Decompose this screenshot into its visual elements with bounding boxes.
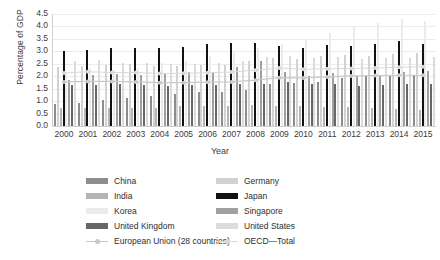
bar bbox=[413, 75, 415, 126]
bar bbox=[143, 85, 145, 126]
y-axis-tick-label: 1.5 bbox=[22, 84, 48, 93]
bar bbox=[65, 72, 67, 126]
y-axis-tick-label: 2.0 bbox=[22, 71, 48, 80]
bar-group bbox=[388, 14, 412, 126]
y-axis-tick-label: 0.5 bbox=[22, 109, 48, 118]
bar bbox=[198, 92, 200, 126]
bar bbox=[188, 72, 190, 127]
bar bbox=[105, 65, 107, 126]
bar bbox=[382, 85, 384, 126]
bar bbox=[341, 78, 343, 126]
bar bbox=[140, 75, 142, 126]
legend-color-swatch bbox=[86, 193, 108, 199]
bar bbox=[347, 107, 349, 126]
legend-item[interactable]: United States bbox=[216, 221, 295, 231]
legend-item[interactable]: Germany bbox=[216, 176, 279, 186]
legend-item[interactable]: United Kingdom bbox=[86, 221, 174, 231]
bar bbox=[287, 82, 289, 126]
bar bbox=[68, 80, 70, 126]
bar bbox=[326, 45, 328, 126]
bar-group bbox=[412, 14, 436, 126]
bar bbox=[86, 50, 88, 126]
bar bbox=[260, 61, 262, 126]
y-axis-tick-label: 3.0 bbox=[22, 46, 48, 55]
bar bbox=[308, 76, 310, 126]
y-axis-tick-label: 4.0 bbox=[22, 21, 48, 30]
legend-item[interactable]: China bbox=[86, 176, 136, 186]
chart-legend: ChinaGermanyIndiaJapanKoreaSingaporeUnit… bbox=[0, 176, 440, 256]
bar bbox=[409, 58, 411, 126]
bar bbox=[239, 84, 241, 126]
bar bbox=[263, 84, 265, 126]
legend-label: Japan bbox=[244, 191, 267, 201]
bar bbox=[215, 85, 217, 126]
bar bbox=[424, 21, 426, 126]
bar bbox=[266, 57, 268, 126]
bar-group bbox=[221, 14, 245, 126]
bar bbox=[305, 40, 307, 126]
bar bbox=[227, 106, 229, 126]
bar bbox=[406, 84, 408, 126]
bar bbox=[332, 73, 334, 127]
bar-group bbox=[173, 14, 197, 126]
bar bbox=[176, 66, 178, 126]
legend-label: Singapore bbox=[244, 206, 283, 216]
bar bbox=[245, 90, 247, 126]
bar bbox=[361, 59, 363, 126]
legend-item[interactable]: Singapore bbox=[216, 206, 283, 216]
bar bbox=[344, 55, 346, 126]
bar bbox=[95, 85, 97, 126]
bar bbox=[108, 108, 110, 126]
bar bbox=[200, 65, 202, 126]
bar bbox=[365, 76, 367, 126]
bar bbox=[153, 66, 155, 126]
bar bbox=[174, 94, 176, 126]
bar bbox=[356, 76, 358, 126]
bar bbox=[74, 61, 76, 126]
bar bbox=[230, 43, 232, 126]
bar bbox=[119, 84, 121, 126]
bar bbox=[416, 53, 418, 126]
bar bbox=[275, 106, 277, 126]
bar bbox=[398, 41, 400, 126]
bar bbox=[212, 72, 214, 126]
bar bbox=[257, 48, 259, 126]
bar bbox=[182, 47, 184, 126]
y-axis-tick-label: 3.5 bbox=[22, 34, 48, 43]
bar bbox=[110, 48, 112, 126]
bar bbox=[185, 61, 187, 126]
bar bbox=[63, 51, 65, 126]
bar bbox=[374, 44, 376, 126]
bar bbox=[337, 57, 339, 126]
legend-item[interactable]: India bbox=[86, 191, 132, 201]
bar bbox=[71, 85, 73, 126]
bar bbox=[81, 66, 83, 126]
y-axis-tick-label: 2.5 bbox=[22, 59, 48, 68]
bar bbox=[150, 96, 152, 126]
bar bbox=[317, 82, 319, 126]
bar bbox=[329, 33, 331, 126]
legend-item[interactable]: Japan bbox=[216, 191, 267, 201]
legend-color-swatch bbox=[86, 178, 108, 184]
bar-group bbox=[53, 14, 77, 126]
legend-item[interactable]: European Union (28 countries) bbox=[86, 236, 230, 246]
bar bbox=[334, 84, 336, 126]
bar bbox=[289, 56, 291, 126]
bar bbox=[92, 75, 94, 126]
bar bbox=[427, 71, 429, 126]
y-axis-tick-label: 1.0 bbox=[22, 96, 48, 105]
legend-label: China bbox=[114, 176, 136, 186]
bar bbox=[146, 63, 148, 126]
bar bbox=[158, 48, 160, 126]
bar-group bbox=[125, 14, 149, 126]
bar-group bbox=[316, 14, 340, 126]
bar bbox=[293, 83, 295, 126]
bar bbox=[323, 107, 325, 126]
legend-item[interactable]: Korea bbox=[86, 206, 137, 216]
bar bbox=[272, 58, 274, 126]
bar bbox=[350, 46, 352, 126]
bar bbox=[84, 108, 86, 126]
bar bbox=[358, 86, 360, 126]
bar bbox=[392, 54, 394, 126]
legend-item[interactable]: OECD—Total bbox=[216, 236, 295, 246]
